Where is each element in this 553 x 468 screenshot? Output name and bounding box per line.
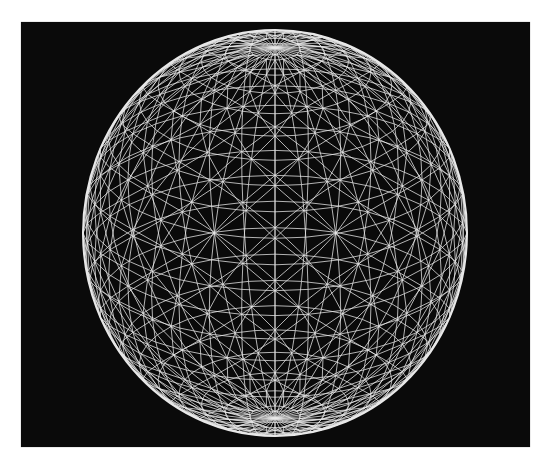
sphere-mesh — [83, 30, 467, 436]
mesh-lines — [83, 30, 467, 436]
wireframe-sphere — [0, 0, 553, 468]
